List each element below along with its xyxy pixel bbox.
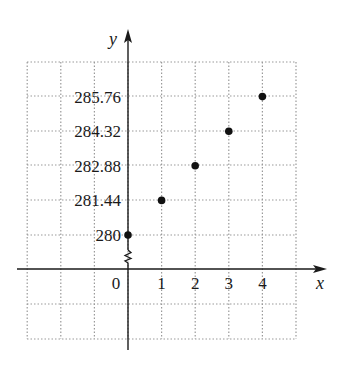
x-tick-label: 1 — [157, 274, 166, 293]
x-tick-label: 0 — [112, 274, 121, 293]
data-point — [124, 231, 132, 239]
data-point — [191, 162, 199, 170]
y-tick-label: 285.76 — [74, 88, 121, 107]
y-tick-label: 282.88 — [74, 157, 121, 176]
x-tick-label: 2 — [191, 274, 200, 293]
data-point — [225, 127, 233, 135]
y-axis-label: y — [107, 29, 117, 49]
data-point — [259, 93, 267, 101]
x-tick-labels: 01234 — [112, 274, 267, 293]
y-tick-label: 280 — [96, 226, 122, 245]
scatter-chart: 280281.44282.88284.32285.76 01234 x y — [0, 0, 349, 366]
axes — [17, 29, 327, 350]
data-point — [158, 197, 166, 205]
y-tick-label: 281.44 — [74, 191, 121, 210]
x-axis-label: x — [315, 273, 324, 293]
x-tick-label: 4 — [258, 274, 267, 293]
y-tick-labels: 280281.44282.88284.32285.76 — [74, 88, 121, 245]
y-tick-label: 284.32 — [74, 122, 121, 141]
x-tick-label: 3 — [225, 274, 234, 293]
